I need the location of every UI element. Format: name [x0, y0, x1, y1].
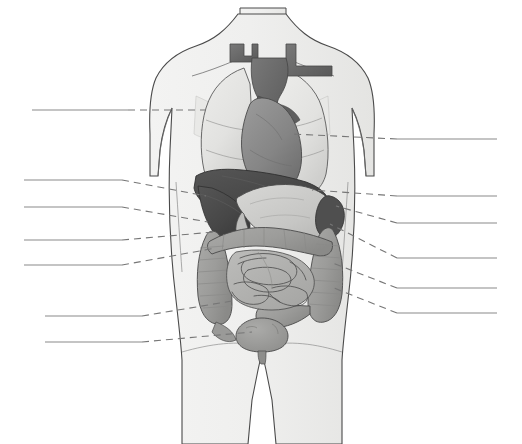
anatomy-worksheet: [0, 0, 522, 444]
anatomy-figure: [0, 0, 522, 444]
